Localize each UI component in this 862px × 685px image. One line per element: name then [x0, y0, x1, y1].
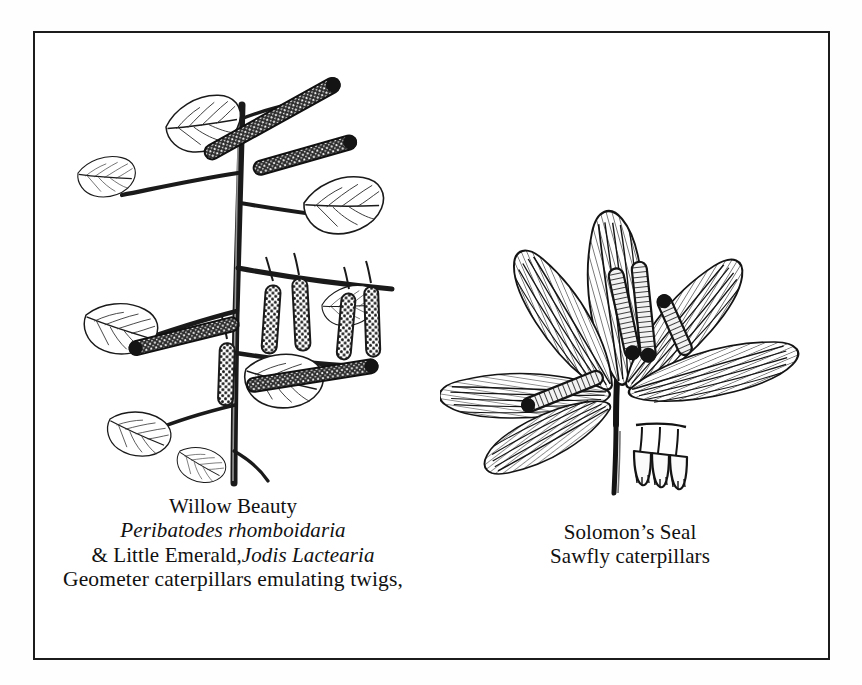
figure-solomons-seal-sawfly-caterpillars [440, 53, 800, 523]
figure-birch-branch-geometer-caterpillars [70, 53, 430, 523]
caption-left-line-4: Geometer caterpillars emulating twigs, [8, 567, 458, 592]
caption-left-line-3: & Little Emerald,Jodis Lactearia [8, 543, 458, 567]
caption-right-line-2: Sawfly caterpillars [470, 544, 790, 568]
caption-right-line-1: Solomon’s Seal [470, 520, 790, 544]
solomons-seal-illustration [440, 53, 800, 523]
solomons-seal-bell-flowers [634, 424, 687, 490]
caption-left-line-3-species: Jodis Lactearia [242, 543, 375, 567]
caption-left-line-1: Willow Beauty [8, 494, 458, 518]
birch-branch-illustration [70, 53, 430, 523]
caption-left-line-3-roman: & Little Emerald, [91, 543, 241, 567]
caption-right: Solomon’s Seal Sawfly caterpillars [470, 520, 790, 569]
illustration-plate-page: Willow Beauty Peribatodes rhomboidaria &… [0, 0, 862, 685]
caption-left: Willow Beauty Peribatodes rhomboidaria &… [8, 494, 458, 592]
caption-left-line-2-species: Peribatodes rhomboidaria [8, 518, 458, 542]
